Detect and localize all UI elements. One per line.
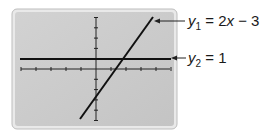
label-y1-eq: = 2 <box>201 12 226 29</box>
graphing-calculator-figure: y1 = 2x − 3 y2 = 1 <box>0 0 263 133</box>
label-y2: y2 = 1 <box>187 49 227 69</box>
label-y1-tail: − 3 <box>234 12 259 29</box>
label-y1: y1 = 2x − 3 <box>187 12 259 32</box>
label-y2-eq: = 1 <box>201 49 226 66</box>
